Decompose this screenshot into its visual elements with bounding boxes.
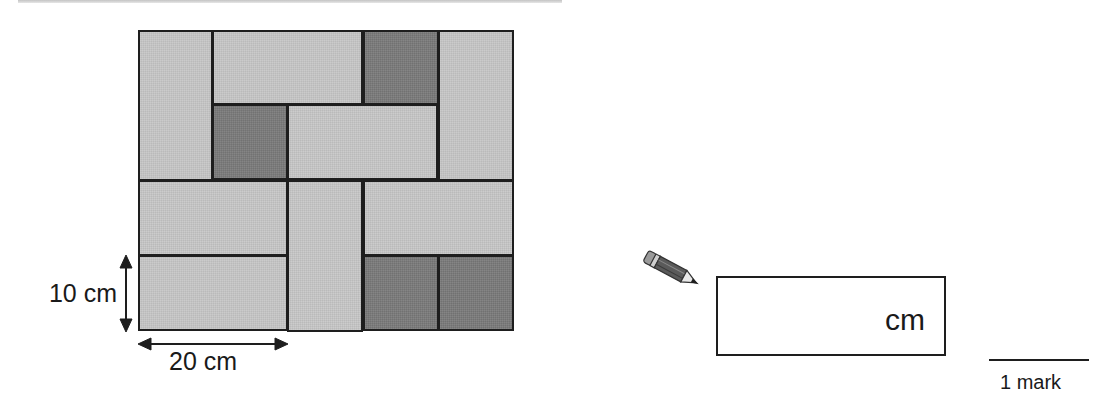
vertical-dimension-arrow: [120, 255, 132, 332]
answer-unit-label: cm: [885, 305, 925, 335]
pencil-icon: [636, 250, 710, 292]
mark-line: [989, 359, 1089, 361]
height-dimension-label: 10 cm: [49, 281, 117, 306]
dimension-arrows: [0, 0, 1119, 413]
width-dimension-label: 20 cm: [169, 349, 237, 374]
answer-input-box[interactable]: cm: [716, 276, 946, 356]
marks-label: 1 mark: [1000, 372, 1061, 392]
